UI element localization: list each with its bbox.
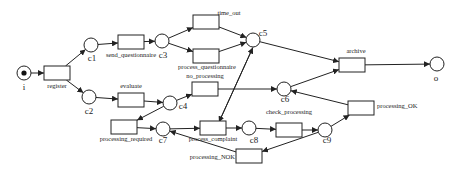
arc-register-to-c2 [66, 80, 83, 93]
transition-label: processing_NOK [190, 153, 235, 160]
arc-c7-to-process_complaint [170, 128, 200, 129]
transition-label: evaluate [120, 82, 142, 89]
petri-net-diagram: ic1c2c3c4c5c6c7c8c9oregistersend_questio… [0, 0, 460, 173]
transition-label: check_processing [266, 108, 313, 115]
arc-process_complaint-to-c5 [219, 48, 253, 123]
transition-processing_required [111, 120, 137, 134]
transition-label: no_processing [186, 72, 224, 79]
arc-process_questionnaire-to-c5 [219, 42, 246, 51]
place-label: c6 [281, 94, 290, 104]
place-c2 [82, 90, 96, 104]
transition-check_processing [276, 123, 302, 137]
arc-c1-to-send_questionnaire [98, 43, 118, 45]
place-label: o [434, 73, 439, 83]
transition-label: time_out [217, 9, 240, 16]
transition-label: send_questionnaire [106, 51, 156, 58]
arc-processing_OK-to-c6 [291, 91, 348, 105]
transition-label: process_questionnaire [178, 63, 236, 70]
transition-process_questionnaire [193, 49, 219, 63]
transition-archive [339, 58, 365, 72]
transition-time_out [193, 15, 219, 29]
arc-c9-to-processing_OK [331, 115, 350, 126]
place-label: c4 [179, 101, 188, 111]
transition-send_questionnaire [118, 35, 144, 49]
arc-evaluate-to-c4 [144, 101, 163, 102]
transition-label: processing_OK [377, 102, 418, 109]
arc-c3-to-process_questionnaire [169, 43, 193, 51]
arc-register-to-c1 [66, 49, 86, 66]
place-label: i [23, 82, 26, 92]
transition-label: archive [346, 47, 365, 54]
place-c1 [84, 38, 98, 52]
place-c4 [163, 96, 177, 110]
arc-c5-to-archive [260, 42, 339, 62]
arc-c3-to-time_out [168, 28, 193, 39]
arc-processing_required-to-c7 [137, 128, 156, 129]
transition-register [44, 66, 70, 80]
place-o [430, 57, 444, 71]
transition-processing_NOK [236, 149, 262, 163]
place-label: c5 [259, 28, 268, 38]
place-label: c2 [85, 106, 94, 116]
transition-no_processing [192, 82, 218, 96]
arc-c8-to-check_processing [256, 128, 276, 129]
arc-c4-to-processing_required [137, 106, 164, 120]
transition-label: process_complaint [189, 135, 238, 142]
transition-label: processing_required [100, 135, 153, 142]
arc-c2-to-evaluate [96, 97, 118, 99]
place-c3 [155, 34, 169, 48]
transition-evaluate [118, 93, 144, 107]
place-c7 [156, 122, 170, 136]
transition-processing_OK [348, 101, 374, 115]
arc-time_out-to-c5 [219, 27, 246, 38]
transition-process_complaint [200, 121, 226, 135]
arc-archive-to-o [365, 64, 430, 65]
place-label: c3 [159, 50, 168, 60]
transition-label: register [47, 82, 67, 89]
arc-c4-to-no_processing [176, 94, 192, 100]
place-c8 [242, 121, 256, 135]
place-label: c9 [323, 135, 332, 145]
arc-c6-to-archive [291, 70, 339, 87]
place-label: c1 [88, 53, 97, 63]
token-icon [21, 70, 26, 75]
place-label: c8 [250, 135, 259, 145]
place-label: c7 [159, 135, 168, 145]
